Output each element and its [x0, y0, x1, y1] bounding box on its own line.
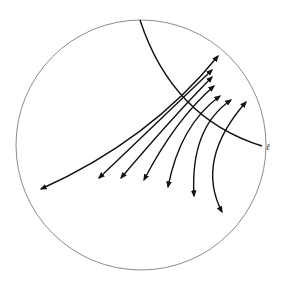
flow-line-3 — [121, 77, 212, 178]
geodesic-label: ℓ — [266, 142, 270, 152]
hyperbolic-disk-diagram: ℓ — [0, 0, 285, 286]
geodesic-line-l — [140, 20, 262, 146]
flow-lines — [41, 56, 246, 212]
flow-line-7 — [213, 102, 246, 212]
boundary-circle — [16, 20, 266, 270]
